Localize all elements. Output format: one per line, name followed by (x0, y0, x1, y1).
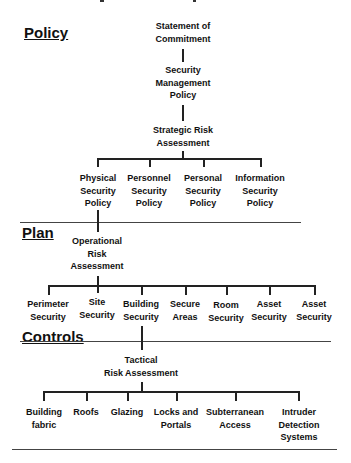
connector-line (182, 49, 184, 62)
section-divider (20, 341, 331, 342)
node-security-management-policy: Security Management Policy (155, 64, 210, 102)
node-line: Asset (251, 298, 287, 311)
connector-line (127, 391, 129, 401)
node-line: Statement of (155, 20, 210, 33)
node-line: Risk (70, 248, 123, 261)
node-roofs: Roofs (73, 406, 99, 419)
node-line: Policy (155, 89, 210, 102)
node-line: Security (296, 311, 332, 324)
node-line: Locks and (154, 406, 199, 419)
node-line: Personnel (127, 172, 171, 185)
connector-line (48, 285, 50, 295)
connector-line (86, 391, 88, 401)
connector-line (269, 285, 271, 295)
node-line: Policy (184, 197, 222, 210)
node-line: Commitment (155, 33, 210, 46)
node-glazing: Glazing (111, 406, 144, 419)
section-label-controls: Controls (22, 328, 84, 345)
node-line: Secure (170, 298, 200, 311)
connector-line (97, 285, 99, 293)
node-line: Roofs (73, 406, 99, 419)
node-line: Detection (278, 419, 319, 432)
section-label-policy: Policy (24, 24, 68, 41)
node-line: Strategic Risk (153, 124, 213, 137)
node-line: Security (251, 311, 287, 324)
node-line: Information (235, 172, 285, 185)
node-line: Systems (278, 431, 319, 444)
connector-line (314, 285, 316, 295)
node-line: fabric (26, 419, 62, 432)
connector-line (176, 391, 178, 401)
node-personnel-security-policy: Personnel Security Policy (127, 172, 171, 210)
connector-line (185, 285, 187, 295)
node-room-security: Room Security (208, 299, 244, 324)
node-secure-areas: Secure Areas (170, 298, 200, 323)
node-line: Site (79, 296, 115, 309)
node-line: Security (184, 185, 222, 198)
connector-line (97, 158, 99, 167)
node-line: Building (123, 298, 159, 311)
node-line: Building (26, 406, 62, 419)
node-line: Operational (70, 235, 123, 248)
node-statement-of-commitment: Statement of Commitment (155, 20, 210, 45)
connector-line (43, 391, 45, 401)
branch-line (48, 285, 315, 287)
node-line: Room (208, 299, 244, 312)
node-line: Intruder (278, 406, 319, 419)
node-information-security-policy: Information Security Policy (235, 172, 285, 210)
node-line: Assessment (153, 137, 213, 150)
node-line: Portals (154, 419, 199, 432)
connector-line (260, 158, 262, 167)
connector-line (298, 391, 300, 401)
clipped-title-fragment (100, 0, 104, 2)
node-tactical-risk-assessment: Tactical Risk Assessment (104, 354, 178, 379)
node-perimeter-security: Perimeter Security (27, 298, 69, 323)
clipped-title-fragment (193, 0, 196, 2)
section-divider (20, 222, 301, 223)
connector-line (141, 326, 143, 350)
node-line: Security (208, 312, 244, 325)
node-line: Policy (80, 197, 117, 210)
node-line: Access (206, 419, 264, 432)
node-line: Subterranean (206, 406, 264, 419)
node-building-security: Building Security (123, 298, 159, 323)
node-personal-security-policy: Personal Security Policy (184, 172, 222, 210)
section-label-plan: Plan (22, 224, 54, 241)
connector-line (182, 105, 184, 121)
node-asset-security: Asset Security (296, 298, 332, 323)
node-strategic-risk-assessment: Strategic Risk Assessment (153, 124, 213, 149)
connector-line (97, 210, 99, 232)
node-line: Risk Assessment (104, 367, 178, 380)
node-operational-risk-assessment: Operational Risk Assessment (70, 235, 123, 273)
node-line: Security (27, 311, 69, 324)
section-divider (12, 449, 337, 450)
node-line: Policy (127, 197, 171, 210)
node-line: Asset (296, 298, 332, 311)
branch-line (97, 158, 262, 160)
connector-line (141, 285, 143, 295)
node-line: Areas (170, 311, 200, 324)
node-line: Security (235, 185, 285, 198)
node-physical-security-policy: Physical Security Policy (80, 172, 117, 210)
node-line: Security (79, 309, 115, 322)
node-line: Perimeter (27, 298, 69, 311)
node-line: Policy (235, 197, 285, 210)
node-asset-security: Asset Security (251, 298, 287, 323)
node-line: Physical (80, 172, 117, 185)
node-line: Management (155, 77, 210, 90)
node-line: Glazing (111, 406, 144, 419)
node-line: Security (80, 185, 117, 198)
node-locks-and-portals: Locks and Portals (154, 406, 199, 431)
node-site-security: Site Security (79, 296, 115, 321)
node-subterranean-access: Subterranean Access (206, 406, 264, 431)
node-line: Tactical (104, 354, 178, 367)
node-line: Security (127, 185, 171, 198)
node-line: Security (123, 311, 159, 324)
connector-line (226, 285, 228, 295)
connector-line (235, 391, 237, 401)
node-line: Security (155, 64, 210, 77)
connector-line (203, 158, 205, 167)
node-intruder-detection-systems: Intruder Detection Systems (278, 406, 319, 444)
node-line: Personal (184, 172, 222, 185)
connector-line (149, 158, 151, 167)
